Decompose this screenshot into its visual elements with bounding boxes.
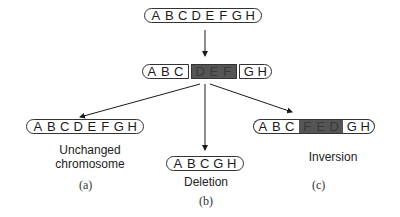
- chromosome-pill: A B C D E F G H: [144, 8, 262, 23]
- gene: H: [225, 157, 239, 170]
- inversion-label: Inversion: [293, 150, 373, 164]
- gene: F: [217, 9, 231, 22]
- broken-chromosome: A B C D E F G H: [142, 64, 272, 79]
- gene: B: [185, 157, 199, 170]
- gene: C: [283, 120, 297, 133]
- gene: A: [149, 9, 163, 22]
- gene: E: [85, 120, 99, 133]
- gene: A: [171, 157, 185, 170]
- gene: B: [159, 65, 173, 78]
- arrow-to-unchanged: [80, 84, 200, 117]
- unchanged-chromosome: A B C D E F G H: [26, 119, 144, 134]
- gene: B: [45, 120, 59, 133]
- gene: C: [198, 157, 212, 170]
- original-chromosome: A B C D E F G H: [144, 8, 262, 23]
- chromosome-pill: A B C G H: [166, 156, 244, 171]
- segment-right: G H: [343, 119, 375, 134]
- gene: A: [256, 120, 270, 133]
- gene: G: [242, 65, 256, 78]
- gene: A: [31, 120, 45, 133]
- gene: D: [328, 120, 342, 133]
- label-line: chromosome: [40, 157, 140, 171]
- gene: G: [112, 120, 126, 133]
- gene: C: [172, 65, 186, 78]
- gene: E: [314, 120, 328, 133]
- segment-right: G H: [239, 64, 272, 79]
- gene: F: [301, 120, 315, 133]
- unchanged-label: Unchanged chromosome: [40, 143, 140, 171]
- gene: C: [176, 9, 190, 22]
- gene: H: [244, 9, 258, 22]
- gene: H: [359, 120, 373, 133]
- segment-left: A B C: [253, 119, 299, 134]
- gene: F: [99, 120, 113, 133]
- gene: F: [221, 65, 235, 78]
- gene: C: [58, 120, 72, 133]
- gene: G: [345, 120, 359, 133]
- gene: A: [145, 65, 159, 78]
- label-line: Unchanged: [40, 143, 140, 157]
- gene: B: [270, 120, 284, 133]
- segment-inverted: F E D: [299, 119, 344, 134]
- gene: D: [72, 120, 86, 133]
- gene: E: [207, 65, 221, 78]
- deletion-label: Deletion: [170, 175, 242, 189]
- arrow-to-inversion: [210, 84, 292, 112]
- gene: D: [194, 65, 208, 78]
- deletion-chromosome: A B C G H: [166, 156, 244, 171]
- segment-middle: D E F: [191, 64, 238, 79]
- gene: D: [190, 9, 204, 22]
- gene: B: [163, 9, 177, 22]
- segment-left: A B C: [142, 64, 189, 79]
- panel-tag-a: (a): [79, 178, 92, 193]
- chromosome-pill: A B C D E F G H: [26, 119, 144, 134]
- panel-tag-c: (c): [312, 178, 325, 193]
- gene: G: [230, 9, 244, 22]
- panel-tag-b: (b): [199, 194, 213, 209]
- gene: E: [203, 9, 217, 22]
- gene: G: [212, 157, 226, 170]
- gene: H: [256, 65, 270, 78]
- inversion-chromosome: A B C F E D G H: [253, 119, 375, 134]
- gene: H: [126, 120, 140, 133]
